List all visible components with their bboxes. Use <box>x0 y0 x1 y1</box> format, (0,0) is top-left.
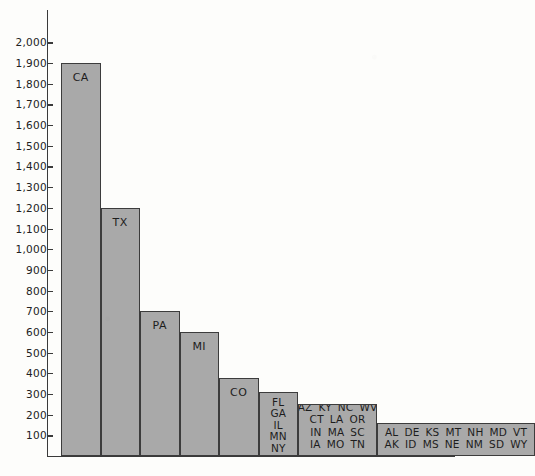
bar-label: DE <box>404 426 419 439</box>
y-tick-label: 1,900 <box>7 57 47 69</box>
bar-label: MN <box>270 431 287 442</box>
y-tick-label: 600 <box>7 326 47 338</box>
y-tick-label: 1,000 <box>7 243 47 255</box>
y-tick-mark <box>47 311 53 312</box>
bar-label-row: INMASC <box>310 426 364 439</box>
y-tick-mark <box>47 63 53 64</box>
y-tick-mark <box>47 291 53 292</box>
y-tick-label: 1,800 <box>7 78 47 90</box>
y-tick-mark <box>47 187 53 188</box>
bar-label-group: AZKYNCWVCTLAORINMASCIAMOTN <box>299 409 376 451</box>
bar-label-row: IAMOTN <box>310 438 365 451</box>
y-tick-label: 100 <box>7 429 47 441</box>
bar-label: CO <box>220 386 258 399</box>
y-tick-mark <box>47 394 53 395</box>
y-tick-mark <box>47 42 53 43</box>
bar-label-row: CTLAOR <box>310 413 366 426</box>
y-tick-label: 500 <box>7 347 47 359</box>
y-tick-mark <box>47 415 53 416</box>
y-tick-mark <box>47 104 53 105</box>
y-tick-mark <box>47 84 53 85</box>
y-tick-mark <box>47 373 53 374</box>
y-tick-mark <box>47 146 53 147</box>
y-tick-label: 300 <box>7 388 47 400</box>
bar-label: CT <box>310 413 324 426</box>
bar-label: NC <box>338 404 354 413</box>
y-tick-label: 1,700 <box>7 98 47 110</box>
bar-label: PA <box>141 319 179 332</box>
bar-label: OR <box>349 413 365 426</box>
bar-label: NE <box>445 438 460 451</box>
y-tick-mark <box>47 249 53 250</box>
bar-label: NH <box>467 426 483 439</box>
bar: MI <box>180 332 220 456</box>
bar-label: IN <box>310 426 321 439</box>
bar-label-row: AZKYNCWV <box>298 404 377 413</box>
y-tick-label: 800 <box>7 285 47 297</box>
y-tick-mark <box>47 208 53 209</box>
y-tick-label: 1,500 <box>7 140 47 152</box>
figure-caption <box>0 466 468 476</box>
y-tick-label: 1,600 <box>7 119 47 131</box>
bar-label-group: FLGAILMNNYWA <box>260 397 298 452</box>
y-tick-label: 700 <box>7 305 47 317</box>
bar-label-row: GA <box>270 408 286 419</box>
bar-label: WY <box>510 438 527 451</box>
bar-label: KY <box>318 404 331 413</box>
bar: AZKYNCWVCTLAORINMASCIAMOTN <box>298 404 377 456</box>
bar: CO <box>219 378 259 456</box>
bar: CA <box>61 63 101 456</box>
bar: PA <box>140 311 180 456</box>
bar-label: AZ <box>298 404 312 413</box>
y-tick-label: 1,100 <box>7 223 47 235</box>
bar-label-row: MN <box>270 431 287 442</box>
bar: FLGAILMNNYWA <box>259 392 299 456</box>
bar-label: MD <box>490 426 508 439</box>
bar-label: VT <box>513 426 527 439</box>
bar-label: SC <box>350 426 364 439</box>
bar-label: ID <box>405 438 417 451</box>
bar-label: MT <box>445 426 461 439</box>
bar-label: CA <box>62 71 100 84</box>
bar-label: GA <box>270 408 286 419</box>
y-tick-label: 1,300 <box>7 181 47 193</box>
bar-label: WV <box>359 404 377 413</box>
bar-label: TX <box>102 216 140 229</box>
bar-label-row: WA <box>270 454 287 456</box>
y-tick-label: 400 <box>7 367 47 379</box>
bar-label: TN <box>350 438 365 451</box>
y-tick-mark <box>47 332 53 333</box>
bar-label: AK <box>385 438 399 451</box>
bar-label: MO <box>327 438 345 451</box>
bar-label: MS <box>423 438 439 451</box>
y-tick-label: 2,000 <box>7 36 47 48</box>
y-tick-mark <box>47 270 53 271</box>
bar-label: IA <box>310 438 321 451</box>
y-tick-label: 900 <box>7 264 47 276</box>
y-axis-line <box>47 10 48 457</box>
y-tick-mark <box>47 125 53 126</box>
y-tick-label: 1,400 <box>7 160 47 172</box>
bar-label: AL <box>385 426 398 439</box>
bar: ALDEKSMTNHMDVTAKIDMSNENMSDWY <box>377 423 535 456</box>
y-tick-label: 1,200 <box>7 202 47 214</box>
y-tick-mark <box>47 353 53 354</box>
bar-label-row: ALDEKSMTNHMDVT <box>385 426 527 439</box>
bar-label: LA <box>330 413 344 426</box>
bar-label-row: AKIDMSNENMSDWY <box>385 438 528 451</box>
bar-label: NM <box>466 438 483 451</box>
y-tick-mark <box>47 166 53 167</box>
bar-label: WA <box>270 454 287 456</box>
bar-label: KS <box>426 426 440 439</box>
y-tick-mark <box>47 229 53 230</box>
bar: TX <box>101 208 141 456</box>
x-axis-line <box>47 456 455 457</box>
bar-label: MA <box>328 426 345 439</box>
y-tick-label: 200 <box>7 409 47 421</box>
bar-label: MI <box>181 340 219 353</box>
bar-label: SD <box>489 438 504 451</box>
y-tick-mark <box>47 435 53 436</box>
bar-label-group: ALDEKSMTNHMDVTAKIDMSNENMSDWY <box>378 428 534 451</box>
